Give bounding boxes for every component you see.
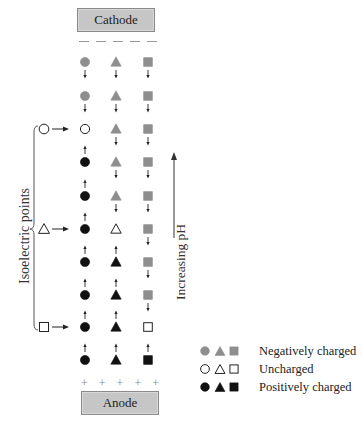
legend-uncharged: Uncharged — [199, 362, 314, 376]
neutral-square-icon — [144, 323, 153, 332]
pos-square-icon — [144, 356, 153, 365]
pos-circle-icon — [80, 355, 89, 364]
pointer-arrow-head-icon — [63, 227, 69, 232]
neg-square-icon — [230, 347, 238, 355]
arrow-down-icon — [114, 204, 117, 213]
pos-circle-icon — [201, 383, 210, 392]
arrow-down-icon — [146, 303, 149, 312]
neg-square-icon — [144, 158, 153, 167]
plus-sign: + — [152, 378, 159, 388]
anode-positive-signs: + + + + + — [81, 378, 159, 388]
neg-square-icon — [144, 258, 153, 267]
pos-circle-icon — [80, 290, 89, 299]
arrow-up-icon — [83, 311, 86, 320]
uncharged-shapes-icon — [199, 362, 259, 376]
legend-positive: Positively charged — [199, 380, 351, 394]
anode-label: Anode — [103, 395, 138, 411]
neutral-square-icon — [230, 365, 238, 373]
neg-triangle-icon — [111, 191, 121, 200]
pos-circle-icon — [80, 257, 89, 266]
legend-uncharged-label: Uncharged — [259, 362, 314, 377]
neutral-circle-icon — [80, 124, 89, 133]
legend-negative: Negatively charged — [199, 344, 356, 358]
arrow-up-icon — [83, 246, 86, 255]
neutral-triangle-icon — [39, 224, 50, 234]
pointer-arrow-head-icon — [63, 127, 69, 132]
plus-sign: + — [99, 378, 106, 388]
neg-square-icon — [144, 92, 153, 101]
arrow-up-icon — [114, 344, 117, 353]
neg-triangle-icon — [111, 57, 121, 66]
neutral-triangle-icon — [215, 365, 225, 374]
pos-circle-icon — [80, 322, 89, 331]
arrow-down-icon — [83, 70, 86, 79]
arrow-down-icon — [114, 137, 117, 146]
pos-circle-icon — [80, 224, 89, 233]
pos-triangle-icon — [111, 257, 121, 266]
arrow-down-icon — [146, 137, 149, 146]
plus-sign: + — [81, 378, 88, 388]
pos-triangle-icon — [215, 383, 225, 392]
neg-circle-icon — [80, 57, 89, 66]
ph-arrow-head-icon — [171, 152, 177, 160]
arrow-up-icon — [83, 180, 86, 189]
neutral-square-icon — [39, 322, 48, 331]
arrow-down-icon — [114, 70, 117, 79]
neg-circle-icon — [201, 347, 210, 356]
arrow-up-icon — [114, 311, 117, 320]
arrow-up-icon — [83, 344, 86, 353]
arrow-up-icon — [83, 213, 86, 222]
plus-sign: + — [117, 378, 124, 388]
legend-negative-label: Negatively charged — [259, 344, 356, 359]
neg-square-icon — [144, 225, 153, 234]
arrow-down-icon — [146, 270, 149, 279]
pos-triangle-icon — [111, 290, 121, 299]
neg-square-icon — [144, 291, 153, 300]
pos-triangle-icon — [111, 355, 121, 364]
arrow-up-icon — [146, 344, 149, 353]
neg-circle-icon — [80, 91, 89, 100]
neg-triangle-icon — [111, 124, 121, 133]
legend-positive-label: Positively charged — [259, 380, 351, 395]
pos-circle-icon — [80, 157, 89, 166]
neg-triangle-icon — [111, 157, 121, 166]
arrow-up-icon — [83, 279, 86, 288]
arrow-up-icon — [83, 146, 86, 155]
pos-triangle-icon — [111, 322, 121, 331]
arrow-down-icon — [146, 70, 149, 79]
pointer-arrow-head-icon — [63, 325, 69, 330]
neutral-circle-icon — [201, 365, 210, 374]
pos-square-icon — [230, 383, 238, 391]
arrow-down-icon — [114, 170, 117, 179]
arrow-down-icon — [146, 170, 149, 179]
arrow-up-icon — [114, 279, 117, 288]
anode-box: Anode — [81, 391, 159, 415]
arrow-down-icon — [146, 237, 149, 246]
neg-square-icon — [144, 58, 153, 67]
arrow-down-icon — [146, 104, 149, 113]
neg-square-icon — [144, 192, 153, 201]
arrow-up-icon — [114, 246, 117, 255]
increasing-ph-label: Increasing pH — [173, 224, 189, 300]
neutral-circle-icon — [39, 124, 49, 134]
isoelectric-points-label: Isoelectric points — [17, 188, 33, 284]
plus-sign: + — [134, 378, 141, 388]
pos-circle-icon — [80, 191, 89, 200]
neg-triangle-icon — [215, 347, 225, 356]
arrow-down-icon — [146, 204, 149, 213]
neutral-triangle-icon — [111, 224, 121, 233]
neg-triangle-icon — [111, 91, 121, 100]
negative-shapes-icon — [199, 344, 259, 358]
positive-shapes-icon — [199, 380, 259, 394]
arrow-down-icon — [114, 104, 117, 113]
arrow-down-icon — [83, 104, 86, 113]
neg-square-icon — [144, 125, 153, 134]
